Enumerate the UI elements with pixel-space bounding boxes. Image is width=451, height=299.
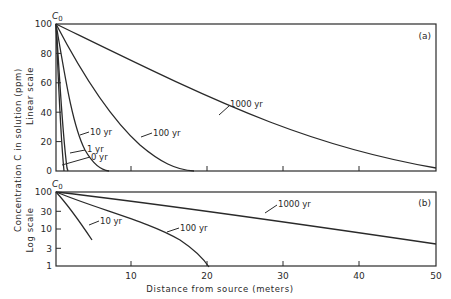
panel-b-frame xyxy=(56,192,436,266)
label-b-100yr: 100 yr xyxy=(180,223,208,233)
concentration-chart: 100 80 60 40 20 0 C0 (a) 10 yr 1 yr 0 yr… xyxy=(0,0,451,299)
panel-a: 100 80 60 40 20 0 C0 (a) 10 yr 1 yr 0 yr… xyxy=(35,11,436,176)
b-ytick-100: 100 xyxy=(35,187,52,197)
linear-scale-label: Linear scale xyxy=(25,67,35,125)
curve-a-100yr xyxy=(56,24,194,171)
b-c0-label: C0 xyxy=(52,179,63,191)
y-axis-title: Concentration C in solution (ppm) xyxy=(13,68,23,232)
curve-a-1000yr xyxy=(56,24,436,168)
panel-b: 100 30 10 3 1 C0 (b) 10 yr 100 yr 1000 y… xyxy=(35,179,436,271)
xtick-50: 50 xyxy=(430,271,442,281)
label-a-100yr: 100 yr xyxy=(153,128,181,138)
a-c0-label: C0 xyxy=(52,11,63,23)
x-axis-labels: 10 20 30 40 50 Distance from source (met… xyxy=(125,271,442,294)
b-ytick-30: 30 xyxy=(41,207,53,217)
label-a-0yr: 0 yr xyxy=(91,152,108,162)
b-ytick-1: 1 xyxy=(46,261,52,271)
a-ytick-60: 60 xyxy=(41,78,53,88)
panel-b-label: (b) xyxy=(418,198,431,208)
x-axis-title: Distance from source (meters) xyxy=(146,284,293,294)
label-a-1000yr: 1000 yr xyxy=(230,99,263,109)
xtick-40: 40 xyxy=(353,271,365,281)
a-ytick-80: 80 xyxy=(41,49,53,59)
xtick-20: 20 xyxy=(201,271,213,281)
xtick-30: 30 xyxy=(277,271,289,281)
label-b-10yr: 10 yr xyxy=(100,216,123,226)
label-a-10yr: 10 yr xyxy=(90,127,113,137)
b-ytick-3: 3 xyxy=(46,244,52,254)
panel-a-frame xyxy=(56,24,436,171)
log-scale-label: Log scale xyxy=(25,207,35,252)
label-b-1000yr: 1000 yr xyxy=(278,199,311,209)
xtick-10: 10 xyxy=(125,271,137,281)
b-ytick-10: 10 xyxy=(41,224,53,234)
a-ytick-0: 0 xyxy=(46,166,52,176)
panel-a-label: (a) xyxy=(418,31,431,41)
a-ytick-40: 40 xyxy=(41,108,53,118)
a-ytick-20: 20 xyxy=(41,137,53,147)
a-ytick-100: 100 xyxy=(35,19,52,29)
